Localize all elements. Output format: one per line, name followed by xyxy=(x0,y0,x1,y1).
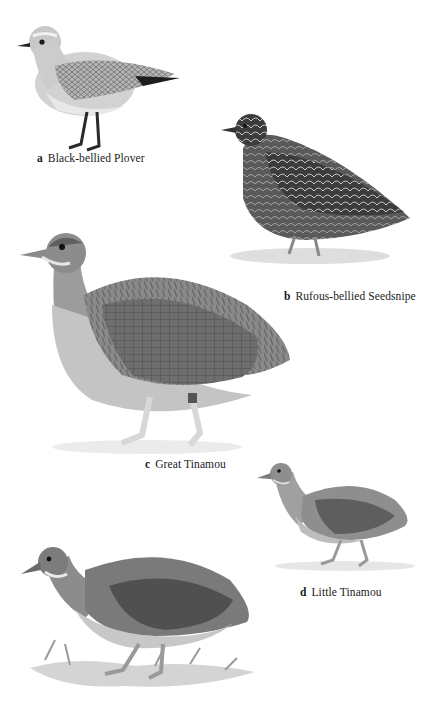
caption-letter: a xyxy=(37,152,43,164)
caption-great-tinamou: cGreat Tinamou xyxy=(145,458,226,470)
uncaptioned-tinamou-drawing xyxy=(15,540,265,700)
bird-illustration-great-tinamou xyxy=(12,225,297,457)
caption-species-name: Great Tinamou xyxy=(155,458,226,470)
bird-illustration-little-tinamou xyxy=(255,460,415,572)
caption-letter: c xyxy=(145,458,150,470)
caption-rufous-bellied-seedsnipe: bRufous-bellied Seedsnipe xyxy=(284,290,416,302)
bird-illustration-black-bellied-plover xyxy=(15,12,185,152)
caption-black-bellied-plover: aBlack-bellied Plover xyxy=(37,152,145,164)
bird-plate: aBlack-bellied Plover xyxy=(0,0,438,711)
caption-species-name: Little Tinamou xyxy=(312,586,382,598)
caption-little-tinamou: dLittle Tinamou xyxy=(300,586,382,598)
caption-letter: d xyxy=(300,586,307,598)
little-tinamou-drawing xyxy=(255,460,415,572)
caption-species-name: Black-bellied Plover xyxy=(48,152,145,164)
plover-drawing xyxy=(15,12,185,152)
caption-species-name: Rufous-bellied Seedsnipe xyxy=(296,290,416,302)
bird-illustration-uncaptioned-tinamou xyxy=(15,540,265,700)
great-tinamou-drawing xyxy=(12,225,297,457)
